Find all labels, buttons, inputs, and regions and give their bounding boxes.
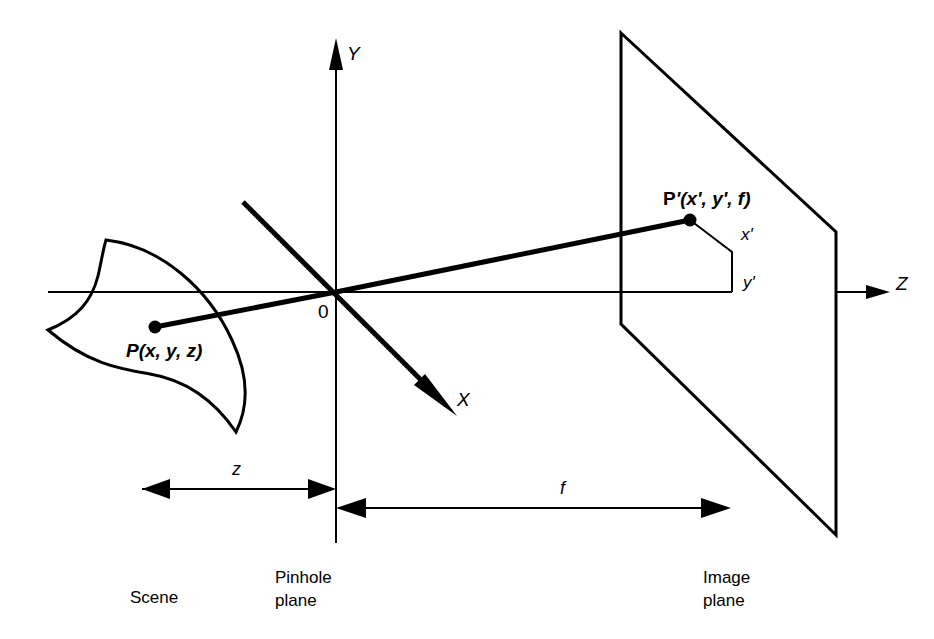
scene-surface-patch [48, 240, 245, 432]
image-point-label: P'(x', y', f) [663, 188, 750, 209]
caption-image-line2: plane [703, 591, 745, 610]
caption-pinhole-line1: Pinhole [275, 568, 332, 587]
f-dimension-arrow [336, 498, 731, 518]
z-dimension-arrow [142, 479, 336, 499]
figure-root: Y X Z 0 P(x, y, z) P'(x', y', f) x' y' z… [0, 0, 934, 639]
caption-pinhole-line2: plane [275, 591, 317, 610]
z-dimension-arrowhead-left [142, 479, 170, 499]
image-point-prefix: P [663, 188, 676, 209]
f-dimension-arrowhead-right [701, 498, 731, 518]
scene-point-marker [149, 321, 162, 334]
scene-point-label: P(x, y, z) [126, 340, 202, 361]
x-axis-arrowhead [414, 374, 457, 416]
x-axis-line [243, 202, 433, 392]
optical-axis-group [48, 285, 890, 299]
f-distance-label: f [560, 478, 567, 498]
x-prime-label: x' [740, 225, 754, 244]
y-axis-label: Y [347, 43, 361, 64]
x-prime-y-prime-polyline [690, 220, 732, 292]
image-coordinate-construction [690, 220, 732, 292]
y-axis-arrowhead [329, 38, 343, 70]
ray-origin-to-image [336, 220, 690, 292]
origin-label: 0 [318, 301, 329, 322]
z-dimension-arrowhead-right [308, 479, 336, 499]
y-prime-label: y' [742, 273, 756, 292]
z-axis-arrowhead [866, 285, 890, 299]
ray-scene-to-origin [155, 292, 336, 327]
projection-ray-group [149, 214, 697, 334]
z-axis-label: Z [895, 273, 909, 294]
scene-patch-outline [48, 240, 245, 432]
x-axis-label: X [456, 389, 471, 410]
caption-image-line1: Image [703, 568, 750, 587]
pinhole-camera-diagram: Y X Z 0 P(x, y, z) P'(x', y', f) x' y' z… [0, 0, 934, 639]
image-plane-parallelogram [621, 33, 836, 535]
x-axis-group [243, 202, 457, 416]
caption-scene: Scene [130, 588, 178, 607]
z-distance-label: z [231, 459, 241, 479]
image-point-suffix: '(x', y', f) [676, 188, 751, 209]
f-dimension-arrowhead-left [336, 498, 366, 518]
image-plane-shape [621, 33, 836, 535]
